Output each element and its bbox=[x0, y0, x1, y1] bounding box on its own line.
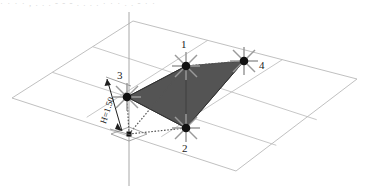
node-dot-3 bbox=[123, 93, 132, 102]
node-dot-2 bbox=[182, 124, 191, 133]
node-label-4: 4 bbox=[259, 60, 265, 71]
structural-diagram-figure: · · · · , . . . - - - . . . . · · · . . … bbox=[0, 0, 370, 193]
node-dot-4 bbox=[240, 57, 249, 66]
diagram-canvas bbox=[0, 0, 370, 193]
node-label-3: 3 bbox=[117, 70, 123, 81]
node-label-2: 2 bbox=[182, 143, 188, 154]
node-label-1: 1 bbox=[181, 39, 187, 50]
dotted-link-base-2 bbox=[129, 128, 186, 134]
node-dot-1 bbox=[182, 62, 191, 71]
